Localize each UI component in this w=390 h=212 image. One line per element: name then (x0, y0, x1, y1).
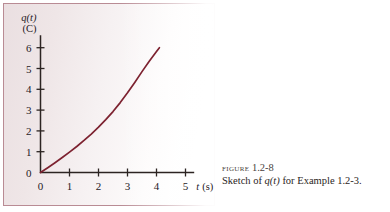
chart-curve (41, 48, 160, 173)
y-tick-label: 4 (26, 83, 32, 95)
caption-figure-line: FIGURE 1.2-8 (222, 162, 388, 173)
caption-text-suffix: for Example 1.2-3. (280, 175, 362, 186)
x-tick-label: 5 (183, 180, 189, 192)
x-axis-title-unit: (s) (202, 181, 214, 193)
y-axis-title-unit: (C) (23, 23, 38, 35)
y-tick-label: 3 (26, 104, 32, 116)
x-tick-label: 1 (67, 180, 73, 192)
x-tick-label: 4 (154, 180, 160, 192)
y-tick-label: 2 (26, 125, 32, 137)
caption-figure-word: FIGURE (222, 163, 249, 173)
figure-caption: FIGURE 1.2-8 Sketch of q(t) for Example … (222, 162, 388, 187)
caption-text-variable: q(t) (265, 175, 280, 186)
axis-lines (41, 35, 195, 172)
caption-text-prefix: Sketch of (222, 175, 265, 186)
x-tick-label: 3 (125, 180, 131, 192)
y-tick-label: 6 (26, 42, 32, 54)
x-tick-label: 0 (38, 180, 44, 192)
y-tick-label: 1 (26, 146, 32, 158)
caption-figure-number: 1.2-8 (252, 162, 274, 173)
chart-axes (41, 35, 195, 172)
curve-series (41, 48, 160, 173)
x-tick-label: 2 (96, 180, 102, 192)
x-axis-title-symbol: t (196, 181, 200, 192)
y-tick-label: 5 (26, 63, 32, 75)
y-tick-label: 0 (26, 167, 32, 179)
chart-ticks (37, 48, 186, 177)
caption-text: Sketch of q(t) for Example 1.2-3. (222, 175, 388, 187)
